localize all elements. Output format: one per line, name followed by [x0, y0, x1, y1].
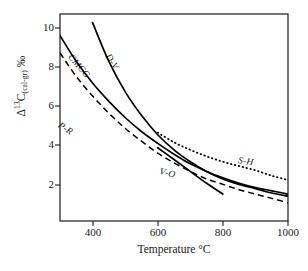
y-axis-ticks: [55, 28, 60, 185]
curve-dv: [93, 23, 288, 197]
curve-vo: [158, 148, 223, 194]
plot-area: [0, 0, 308, 271]
curve-pr: [60, 53, 288, 203]
chart-figure: Δ13C(cal-gr) ‰ 10 8 6 4 2 400 600 800 10…: [0, 0, 308, 271]
curves-group: [60, 23, 288, 203]
x-axis-ticks: [93, 221, 288, 226]
plot-frame: [60, 14, 288, 221]
